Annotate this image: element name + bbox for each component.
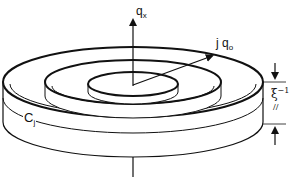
qx-subscript: x [143, 11, 147, 20]
xi-thickness-label: ξ−1 // [271, 88, 289, 116]
jqo-vector-label: j qo [216, 36, 233, 50]
jqo-subscript: o [229, 43, 233, 52]
cj-ring-label: Cj [23, 110, 36, 125]
xi-symbol: ξ [271, 87, 278, 101]
jqo-symbol: j q [216, 36, 229, 50]
xi-subscript: // [273, 102, 278, 111]
cj-symbol: C [24, 110, 33, 125]
xi-superscript: −1 [278, 86, 290, 95]
qx-symbol: q [136, 4, 143, 18]
cj-subscript: j [33, 118, 35, 127]
concentric-disk-diagram [0, 0, 292, 177]
qx-axis-label: qx [136, 4, 147, 18]
